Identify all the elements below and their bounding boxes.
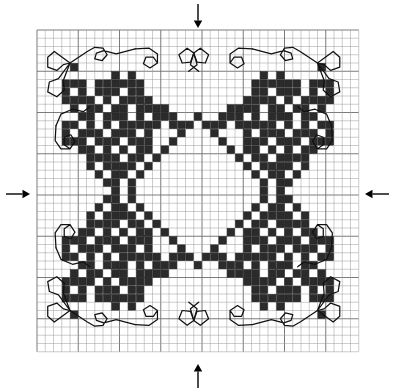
stitch-cell (79, 96, 87, 104)
stitch-cell (153, 253, 161, 261)
stitch-cell (252, 286, 260, 294)
stitch-cell (310, 138, 318, 146)
stitch-cell (260, 129, 268, 137)
stitch-cell (260, 237, 268, 245)
stitch-cell (301, 228, 309, 236)
stitch-cell (310, 113, 318, 121)
stitch-cell (260, 88, 268, 96)
stitch-cell (103, 113, 111, 121)
stitch-cell (244, 146, 252, 154)
stitch-cell (293, 237, 301, 245)
stitch-cell (244, 129, 252, 137)
stitch-cell (87, 212, 95, 220)
stitch-cell (136, 154, 144, 162)
stitch-cell (310, 286, 318, 294)
diamond-outline-cell (136, 204, 144, 212)
diamond-outline-cell (128, 179, 136, 187)
stitch-cell (285, 237, 293, 245)
stitch-cell (87, 96, 95, 104)
stitch-cell (120, 171, 128, 179)
stitch-cell (103, 212, 111, 220)
stitch-cell (120, 270, 128, 278)
stitch-cell (128, 212, 136, 220)
stitch-cell (285, 113, 293, 121)
stitch-cell (244, 253, 252, 261)
stitch-cell (112, 113, 120, 121)
stitch-cell (252, 96, 260, 104)
diamond-outline-cell (235, 220, 243, 228)
stitch-cell (145, 96, 153, 104)
stitch-cell (244, 96, 252, 104)
stitch-cell (87, 278, 95, 286)
stitch-cell (120, 253, 128, 261)
stitch-cell (103, 154, 111, 162)
stitch-cell (70, 105, 78, 113)
stitch-cell (169, 113, 177, 121)
stitch-cell (285, 80, 293, 88)
stitch-cell (145, 228, 153, 236)
stitch-cell (128, 88, 136, 96)
stitch-cell (260, 253, 268, 261)
stitch-cell (70, 294, 78, 302)
stitch-cell (277, 286, 285, 294)
stitch-cell (310, 88, 318, 96)
diamond-outline-cell (186, 121, 194, 129)
stitch-cell (293, 80, 301, 88)
stitch-cell (293, 286, 301, 294)
stitch-cell (277, 105, 285, 113)
stitch-cell (260, 80, 268, 88)
stitch-cell (285, 146, 293, 154)
stitch-cell (112, 171, 120, 179)
stitch-cell (252, 146, 260, 154)
stitch-cell (285, 253, 293, 261)
stitch-cell (260, 212, 268, 220)
stitch-cell (103, 88, 111, 96)
stitch-cell (268, 212, 276, 220)
stitch-cell (310, 80, 318, 88)
stitch-cell (120, 245, 128, 253)
diamond-outline-cell (169, 237, 177, 245)
stitch-cell (79, 245, 87, 253)
stitch-cell (112, 237, 120, 245)
stitch-cell (277, 80, 285, 88)
stitch-cell (244, 278, 252, 286)
stitch-cell (79, 129, 87, 137)
stitch-cell (301, 270, 309, 278)
stitch-cell (112, 245, 120, 253)
stitch-cell (95, 171, 103, 179)
stitch-cell (103, 278, 111, 286)
stitch-cell (95, 138, 103, 146)
stitch-cell (103, 179, 111, 187)
stitch-cell (79, 146, 87, 154)
stitch-cell (285, 212, 293, 220)
diamond-outline-cell (202, 253, 210, 261)
canvas-background (0, 0, 395, 392)
stitch-cell (112, 220, 120, 228)
stitch-cell (252, 294, 260, 302)
stitch-cell (285, 261, 293, 269)
stitch-cell (260, 96, 268, 104)
stitch-cell (285, 220, 293, 228)
stitch-cell (120, 121, 128, 129)
stitch-cell (128, 294, 136, 302)
stitch-cell (268, 204, 276, 212)
diamond-outline-cell (219, 138, 227, 146)
stitch-cell (128, 303, 136, 311)
stitch-cell (277, 270, 285, 278)
stitch-cell (87, 162, 95, 170)
stitch-cell (285, 138, 293, 146)
stitch-cell (120, 146, 128, 154)
stitch-cell (293, 129, 301, 137)
stitch-cell (260, 245, 268, 253)
stitch-cell (95, 88, 103, 96)
stitch-cell (285, 154, 293, 162)
stitch-cell (79, 113, 87, 121)
stitch-cell (112, 294, 120, 302)
stitch-cell (128, 245, 136, 253)
stitch-cell (277, 88, 285, 96)
stitch-cell (128, 121, 136, 129)
stitch-cell (128, 237, 136, 245)
stitch-cell (128, 72, 136, 80)
stitch-cell (277, 171, 285, 179)
stitch-cell (310, 245, 318, 253)
